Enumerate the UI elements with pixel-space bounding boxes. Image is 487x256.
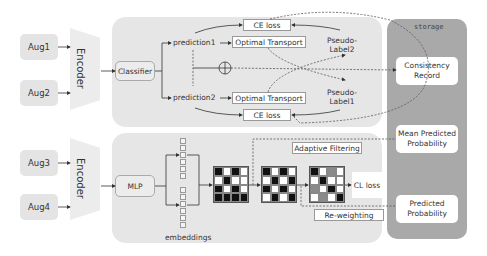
connectors [0,0,487,256]
